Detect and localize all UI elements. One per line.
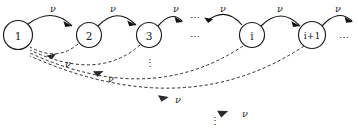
rate-label-forward-6: ν: [335, 3, 341, 14]
transition-rate-diagram-figure: 1 2 3 i i+1 ν ν ν ν: [0, 0, 358, 134]
rate-label-return-3: ν: [175, 94, 181, 105]
return-edge-path: [30, 45, 140, 65]
rate-label-forward-1: ν: [50, 3, 56, 14]
rate-label-return-4: ν: [242, 108, 248, 119]
diagram-canvas: 1 2 3 i i+1 ν ν ν ν: [0, 0, 358, 134]
return-edges-group: [30, 44, 304, 118]
node-label: i+1: [304, 30, 321, 41]
return-edge-path: [30, 46, 243, 79]
node-label: 1: [15, 30, 22, 42]
node-label: 2: [86, 30, 93, 42]
rate-label-forward-3: ν: [173, 3, 179, 14]
rate-label-forward-5: ν: [277, 3, 283, 14]
node-label: 3: [146, 30, 153, 42]
return-edge-path: [30, 44, 78, 54]
arrowhead-icon: [93, 71, 103, 77]
arrowhead-icon: [158, 95, 169, 102]
rate-label-forward-2: ν: [110, 3, 116, 14]
state-node-1[interactable]: 1: [4, 21, 33, 50]
rate-label-return-1: ν: [65, 58, 71, 69]
state-node-i-plus-1[interactable]: i+1: [299, 22, 326, 49]
state-node-3[interactable]: 3: [137, 23, 162, 48]
ellipsis-right-row: ⋯: [339, 32, 350, 43]
ellipsis-under-node-3: ⋮: [145, 57, 155, 68]
ellipsis-bottom: ⋮: [210, 115, 220, 126]
forward-edge-i-to-ip1: [261, 16, 300, 27]
state-node-i[interactable]: i: [240, 23, 265, 48]
return-edge-ip1-to-1: [30, 46, 304, 118]
state-nodes-group: 1 2 3 i i+1: [4, 21, 326, 50]
forward-edge-dots-to-i: [204, 14, 242, 25]
ellipsis-top-middle: ⋯: [190, 12, 201, 23]
rate-label-return-2: ν: [108, 73, 114, 84]
rate-label-forward-4: ν: [220, 3, 226, 14]
forward-edge-2-to-3: [98, 16, 136, 27]
forward-edge-3-to-dots: [158, 17, 183, 26]
state-node-2[interactable]: 2: [77, 23, 102, 48]
arrowhead-icon: [345, 17, 353, 23]
forward-edge-ip1-to-dots: [322, 16, 353, 26]
return-edge-path: [30, 46, 304, 88]
ellipsis-middle-row: ⋯: [190, 31, 201, 42]
forward-edge-1-to-2: [28, 15, 72, 26]
return-edge-i-to-1: [30, 46, 243, 102]
